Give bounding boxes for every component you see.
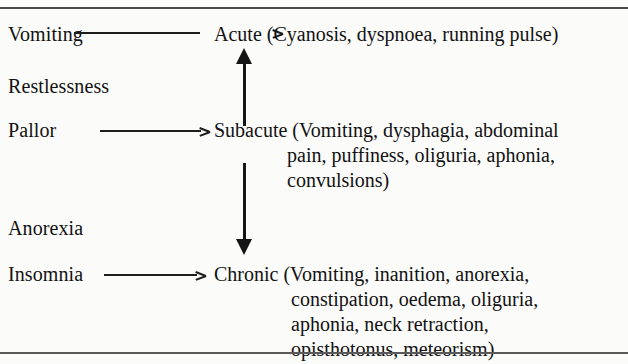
symptom-label-pallor: Pallor bbox=[8, 118, 56, 142]
arrow-insomnia-to-chronic bbox=[104, 269, 206, 280]
stage-line: Acute (Cyanosis, dyspnoea, running pulse… bbox=[214, 22, 558, 47]
symptom-label-insomnia: Insomnia bbox=[8, 262, 83, 286]
arrow-head-down-icon bbox=[236, 239, 252, 255]
bottom-divider-rule bbox=[0, 352, 628, 354]
stage-line: aphonia, neck retraction, bbox=[214, 312, 538, 337]
clinical-stages-diagram: Vomiting Restlessness Pallor Anorexia In… bbox=[0, 0, 628, 364]
top-divider-rule bbox=[0, 7, 628, 9]
arrow-shaft bbox=[100, 130, 201, 132]
arrow-pallor-to-subacute bbox=[100, 125, 210, 136]
symptom-label-anorexia: Anorexia bbox=[8, 216, 83, 240]
stage-block-chronic: Chronic (Vomiting, inanition, anorexia, … bbox=[214, 262, 538, 362]
arrow-shaft bbox=[104, 274, 197, 276]
arrow-vomiting-to-acute bbox=[74, 27, 209, 38]
stage-line: constipation, oedema, oliguria, bbox=[214, 287, 538, 312]
stage-line: pain, puffiness, oliguria, aphonia, bbox=[214, 143, 559, 168]
stage-block-subacute: Subacute (Vomiting, dysphagia, abdominal… bbox=[214, 118, 559, 193]
arrow-shaft bbox=[74, 32, 200, 34]
stage-line: opisthotonus, meteorism) bbox=[214, 337, 538, 362]
stage-line: Subacute (Vomiting, dysphagia, abdominal bbox=[214, 118, 559, 143]
stage-block-acute: Acute (Cyanosis, dyspnoea, running pulse… bbox=[214, 22, 558, 47]
symptom-label-restlessness: Restlessness bbox=[8, 74, 109, 98]
symptom-label-vomiting: Vomiting bbox=[8, 22, 83, 46]
arrow-shaft bbox=[243, 60, 246, 126]
stage-line: Chronic (Vomiting, inanition, anorexia, bbox=[214, 262, 538, 287]
stage-line: convulsions) bbox=[214, 168, 559, 193]
arrow-head-right-icon bbox=[199, 125, 210, 136]
arrow-head-right-icon bbox=[195, 269, 206, 280]
arrow-subacute-to-acute bbox=[236, 48, 252, 126]
